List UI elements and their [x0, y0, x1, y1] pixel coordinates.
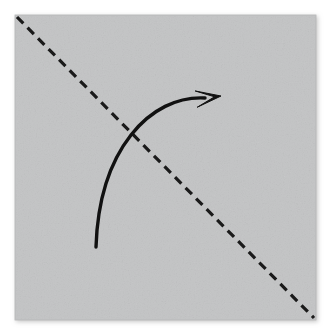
origami-diagram-container: [0, 0, 331, 336]
origami-diagram-svg: [0, 0, 331, 336]
